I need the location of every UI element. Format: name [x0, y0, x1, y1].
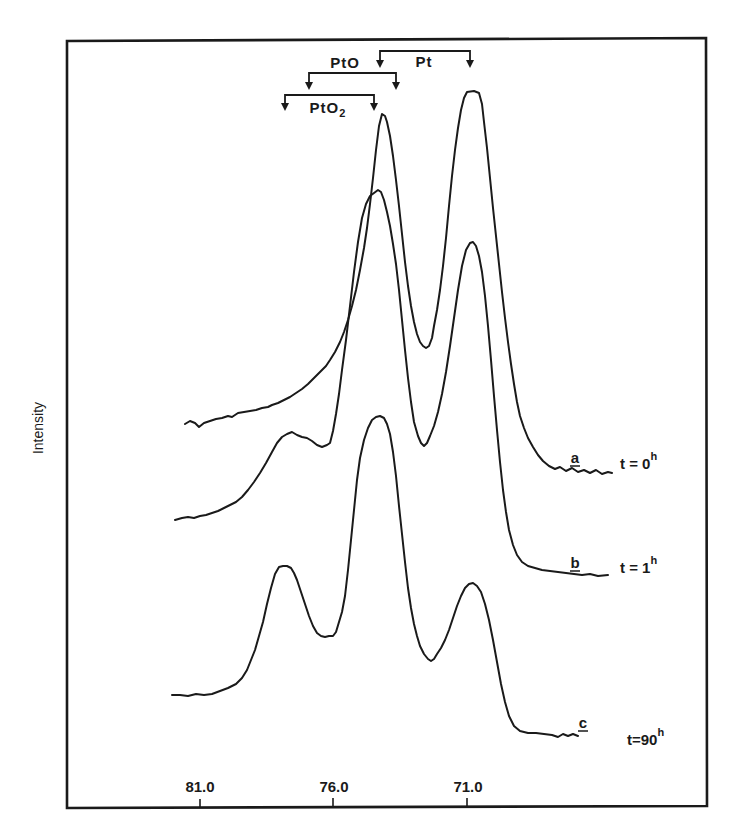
y-axis-label: Intensity: [30, 402, 46, 454]
x-axis: 81.0 76.0 71.0: [185, 778, 482, 808]
curve-label-a: a: [571, 449, 580, 466]
legend-a: a t = 0h: [570, 449, 657, 472]
time-label-c: t=90h: [627, 726, 664, 748]
legend-c: c t=90h: [578, 714, 664, 748]
time-label-a: t = 0h: [620, 450, 657, 472]
curve-label-b: b: [570, 554, 579, 571]
annotation-pto2: PtO2: [281, 95, 378, 119]
annotation-pto2-label: PtO2: [310, 99, 347, 119]
annotation-pto: PtO: [305, 54, 400, 90]
annotation-pt-label: Pt: [416, 53, 433, 70]
x-tick-label-76: 76.0: [319, 778, 348, 795]
annotation-pto-label: PtO: [330, 54, 360, 71]
curve-label-c: c: [579, 714, 587, 731]
spectrum-curve-b: [175, 190, 608, 576]
time-label-b: t = 1h: [620, 554, 657, 576]
annotation-pt: Pt: [376, 51, 474, 70]
x-tick-label-71: 71.0: [453, 778, 482, 795]
spectrum-curve-c: [172, 416, 578, 737]
legend-b: b t = 1h: [570, 554, 657, 576]
xps-spectrum-chart: 81.0 76.0 71.0 Intensity Pt PtO PtO2 a t…: [0, 0, 739, 837]
x-tick-label-81: 81.0: [185, 778, 214, 795]
